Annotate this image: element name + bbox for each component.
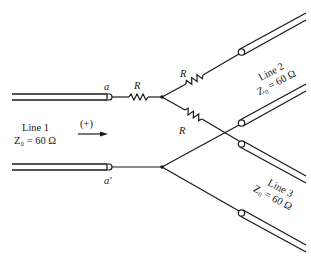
terminal-a-prime-label: a′	[104, 175, 112, 186]
line-3-conductor-1a	[243, 141, 306, 176]
line-3-conductor-2a	[243, 210, 306, 245]
resistor-branch-line-3	[184, 107, 204, 121]
line-2-conductor-2b	[243, 91, 306, 126]
wire-junction-bottom-to-line-3	[162, 167, 239, 211]
direction-arrow-head	[100, 132, 108, 137]
resistor-series-label: R	[133, 80, 141, 91]
resistor-series	[129, 94, 148, 100]
terminal-a	[107, 94, 112, 100]
line-2-conductor-1b	[243, 20, 306, 55]
resistor-branch-line-2	[185, 72, 205, 86]
line-3-conductor-2b	[240, 216, 306, 252]
line-3-terminal-2	[238, 210, 244, 216]
terminal-a-label: a	[104, 81, 109, 92]
line-1-name: Line 1	[22, 122, 49, 133]
resistor-branch-line-3-label: R	[178, 125, 186, 136]
resistor-branch-line-2-label: R	[179, 68, 187, 79]
wire-junction-bottom-to-line-2	[162, 125, 239, 167]
line-3-terminal-1	[238, 141, 244, 147]
direction-label: (+)	[80, 118, 93, 130]
line-2-terminal-2	[238, 120, 244, 126]
line-1-impedance: Z₀ = 60 Ω	[14, 135, 56, 146]
line-2-terminal-1	[238, 49, 244, 55]
terminal-a-prime	[107, 164, 112, 170]
power-divider-diagram: a a′ R R R Line 1 Z₀ =	[0, 0, 311, 261]
wire-junction-to-r2	[162, 84, 186, 97]
wire-junction-to-r3	[162, 97, 185, 110]
wire-r3-to-line-3	[202, 119, 239, 141]
wire-r2-to-line-2	[203, 54, 239, 75]
line-2-conductor-1a	[240, 13, 306, 49]
